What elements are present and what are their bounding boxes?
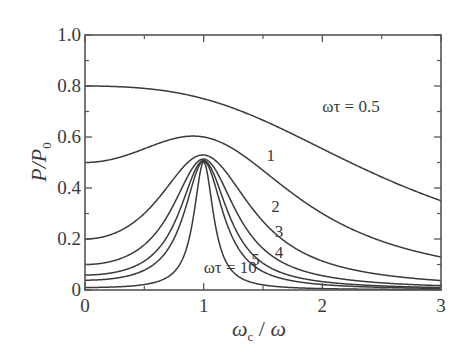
- curve-label: ωτ = 0.5: [322, 97, 379, 116]
- y-tick-label: 0.8: [57, 75, 81, 96]
- y-axis-title: P/P0: [26, 142, 54, 183]
- chart: 012300.20.40.60.81.0 ωτ = 0.512345ωτ = 1…: [0, 0, 467, 355]
- curve-label: 2: [271, 197, 280, 216]
- y-tick-label: 0.4: [57, 177, 81, 198]
- x-tick-label: 0: [80, 295, 90, 316]
- curve-label: ωτ = 10: [204, 258, 257, 277]
- y-tick-label: 0: [72, 279, 82, 300]
- series-line-0: [85, 86, 441, 201]
- y-tick-label: 0.2: [57, 228, 81, 249]
- curve-label: 3: [275, 222, 284, 241]
- plot-frame: [85, 35, 441, 290]
- curves: [85, 86, 441, 290]
- ticks: [85, 35, 441, 290]
- series-line-1: [85, 136, 441, 257]
- y-tick-label: 1.0: [57, 24, 81, 45]
- x-tick-label: 3: [436, 295, 446, 316]
- y-tick-label: 0.6: [57, 126, 81, 147]
- curve-label: 1: [267, 146, 276, 165]
- x-tick-label: 2: [318, 295, 328, 316]
- curve-label: 4: [275, 243, 284, 262]
- x-tick-label: 1: [199, 295, 209, 316]
- series-line-2: [85, 155, 441, 281]
- curve-labels: ωτ = 0.512345ωτ = 10: [204, 97, 380, 277]
- series-line-6: [85, 162, 441, 289]
- x-axis-title: ωc / ω: [232, 316, 286, 344]
